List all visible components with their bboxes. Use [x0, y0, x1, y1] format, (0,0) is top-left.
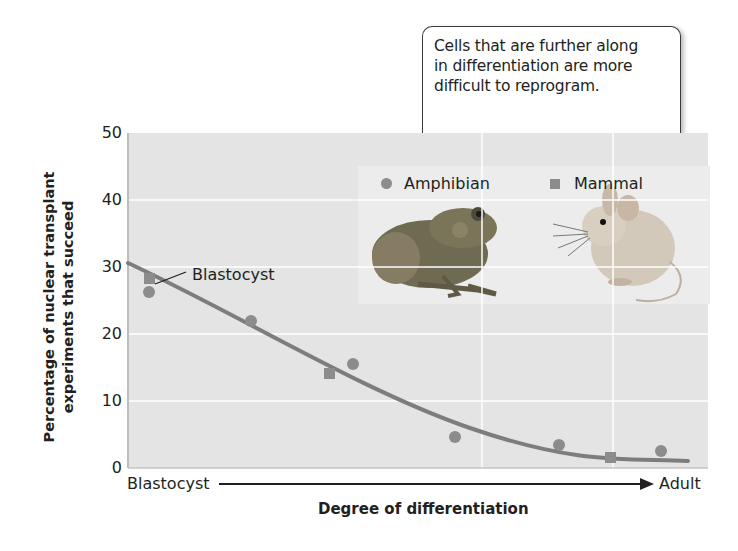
x-axis-label: Degree of differentiation: [318, 500, 529, 518]
data-point-mammal: [324, 368, 335, 379]
y-tick-30: 30: [92, 257, 122, 276]
blastocyst-annotation: Blastocyst: [192, 265, 275, 284]
x-axis-end-label: Adult: [659, 474, 701, 493]
y-axis-label: Percentage of nuclear transplant experim…: [40, 157, 84, 457]
data-point-amphibian: [245, 315, 257, 327]
y-tick-40: 40: [92, 190, 122, 209]
legend-item-amphibian: Amphibian: [381, 174, 490, 193]
y-tick-10: 10: [92, 391, 122, 410]
y-axis-label-line-2: experiments that succeed: [59, 157, 78, 457]
data-point-mammal: [605, 452, 616, 463]
data-point-amphibian: [449, 431, 461, 443]
trend-curve: [128, 263, 688, 461]
data-point-amphibian: [143, 286, 155, 298]
data-point-amphibian: [655, 445, 667, 457]
data-point-amphibian: [347, 358, 359, 370]
legend-label-amphibian: Amphibian: [404, 174, 490, 193]
data-point-mammal: [144, 273, 155, 284]
data-point-amphibian: [553, 439, 565, 451]
circle-marker-icon: [381, 178, 392, 189]
y-axis-label-line-1: Percentage of nuclear transplant: [40, 157, 59, 457]
arrow-right-icon: [640, 478, 654, 490]
legend-item-mammal: Mammal: [550, 174, 643, 193]
x-axis-start-label: Blastocyst: [127, 474, 210, 493]
mammal-series: [144, 273, 616, 463]
horizontal-gridlines: [128, 200, 708, 401]
y-tick-50: 50: [92, 123, 122, 142]
y-tick-20: 20: [92, 324, 122, 343]
square-marker-icon: [550, 179, 560, 189]
y-tick-0: 0: [92, 458, 122, 477]
legend-label-mammal: Mammal: [574, 174, 643, 193]
